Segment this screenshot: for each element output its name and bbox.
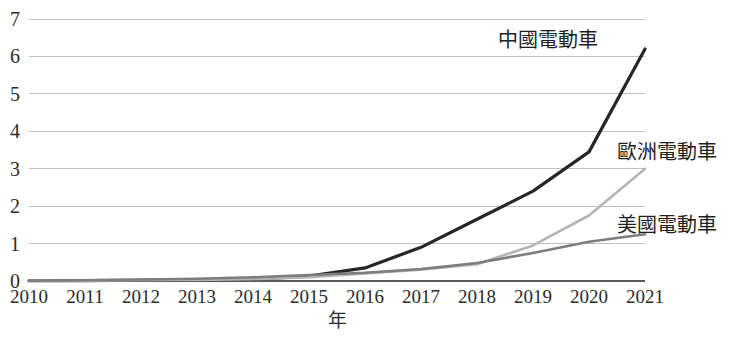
chart-container: 76543210 2010201120122013201420152016201… <box>0 0 731 343</box>
x-axis-tick-label: 2012 <box>122 286 160 307</box>
x-axis-tick-label: 2021 <box>626 286 664 307</box>
series-label: 中國電動車 <box>498 29 598 51</box>
x-axis-tick-label: 2013 <box>178 286 216 307</box>
x-axis-tick-label: 2018 <box>458 286 496 307</box>
series-label: 歐洲電動車 <box>617 141 717 163</box>
series-label: 美國電動車 <box>617 214 717 236</box>
x-axis-tick-label: 2011 <box>66 286 103 307</box>
y-axis-tick-label: 2 <box>10 195 20 217</box>
x-axis-title: 年 <box>328 310 347 331</box>
y-axis-tick-label: 3 <box>10 158 20 180</box>
x-axis-tick-label: 2017 <box>402 286 440 307</box>
y-axis-tick-label: 6 <box>10 45 20 67</box>
x-axis-tick-label: 2020 <box>570 286 608 307</box>
x-axis-tick-label: 2010 <box>10 286 48 307</box>
y-axis-tick-label: 5 <box>10 83 20 105</box>
x-axis-tick-label: 2014 <box>234 286 273 307</box>
x-axis-tick-label: 2016 <box>346 286 384 307</box>
y-axis-tick-label: 7 <box>10 8 20 30</box>
y-axis-tick-label: 4 <box>10 120 20 142</box>
line-chart: 76543210 2010201120122013201420152016201… <box>0 0 731 343</box>
x-axis-tick-label: 2015 <box>290 286 328 307</box>
x-axis-tick-label: 2019 <box>514 286 552 307</box>
y-axis-tick-label: 1 <box>10 233 20 255</box>
